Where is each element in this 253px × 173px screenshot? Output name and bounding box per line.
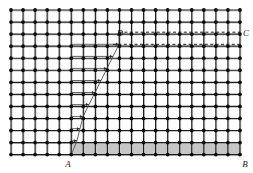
grid-node [226, 56, 230, 60]
grid-node [214, 117, 218, 121]
grid-node [178, 56, 182, 60]
grid-node [81, 153, 85, 157]
grid-node [21, 20, 25, 24]
grid-node [178, 153, 182, 157]
grid-node [190, 105, 194, 109]
grid-node [238, 32, 242, 36]
grid-node [106, 92, 110, 96]
grid-node [154, 80, 158, 84]
grid-node [45, 20, 49, 24]
grid-node [130, 56, 134, 60]
grid-node [130, 20, 134, 24]
grid-node [21, 117, 25, 121]
grid-node [21, 80, 25, 84]
grid-node [238, 20, 242, 24]
label-D: D [116, 28, 124, 38]
grid-node [166, 141, 170, 145]
grid-node [45, 56, 49, 60]
grid-node [69, 56, 73, 60]
grid-node [69, 68, 73, 72]
grid-node [9, 80, 13, 84]
label-B: B [242, 159, 248, 169]
grid-node [238, 56, 242, 60]
grid-node [154, 44, 158, 48]
grid-node [57, 32, 61, 36]
grid-node [166, 80, 170, 84]
grid-node [69, 44, 73, 48]
grid-node [57, 68, 61, 72]
grid-node [238, 44, 242, 48]
grid-node [202, 105, 206, 109]
grid-node [106, 44, 110, 48]
grid-node [166, 68, 170, 72]
grid-node [106, 80, 110, 84]
grid-node [202, 8, 206, 12]
grid-node [202, 68, 206, 72]
grid-node [178, 68, 182, 72]
grid-node [9, 129, 13, 133]
grid-node [214, 105, 218, 109]
grid-node [81, 8, 85, 12]
grid-node [238, 92, 242, 96]
grid-node [93, 80, 97, 84]
grid-node [106, 32, 110, 36]
grid-node [93, 117, 97, 121]
grid-node [45, 105, 49, 109]
grid-node [214, 129, 218, 133]
grid-node [69, 153, 73, 157]
grid-node [166, 56, 170, 60]
grid-node [57, 117, 61, 121]
grid-node [81, 56, 85, 60]
grid-node [118, 68, 122, 72]
grid-node [69, 92, 73, 96]
grid-node [166, 44, 170, 48]
grid-node [202, 20, 206, 24]
grid-node [45, 80, 49, 84]
grid-node [202, 129, 206, 133]
grid-node [142, 92, 146, 96]
grid-node [142, 8, 146, 12]
grid-node [9, 68, 13, 72]
grid-node [202, 80, 206, 84]
grid-node [226, 68, 230, 72]
grid-node [9, 92, 13, 96]
grid-node [130, 32, 134, 36]
grid-node [33, 20, 37, 24]
grid-node [190, 129, 194, 133]
grid-node [57, 105, 61, 109]
grid-node [238, 68, 242, 72]
grid-node [190, 8, 194, 12]
grid-node [238, 80, 242, 84]
grid-node [238, 129, 242, 133]
grid-node [238, 141, 242, 145]
grid-node [81, 92, 85, 96]
grid-node [178, 129, 182, 133]
grid-node [202, 44, 206, 48]
grid-node [106, 8, 110, 12]
grid-node [69, 141, 73, 145]
grid-node [238, 117, 242, 121]
grid-node [226, 129, 230, 133]
label-A: A [64, 159, 71, 169]
grid-node [226, 80, 230, 84]
grid-node [226, 105, 230, 109]
grid-node [130, 105, 134, 109]
grid-node [178, 92, 182, 96]
grid-node [178, 44, 182, 48]
grid-node [178, 32, 182, 36]
grid-node [202, 32, 206, 36]
grid-node [69, 129, 73, 133]
grid-node [33, 44, 37, 48]
grid-node [57, 141, 61, 145]
grid-node [57, 44, 61, 48]
grid-node [21, 153, 25, 157]
grid-node [81, 32, 85, 36]
grid-node [178, 117, 182, 121]
grid-node [226, 141, 230, 145]
grid-node [57, 20, 61, 24]
label-C: C [243, 28, 250, 38]
grid-node [202, 141, 206, 145]
grid-node [9, 32, 13, 36]
grid-node [9, 105, 13, 109]
grid-node [142, 105, 146, 109]
